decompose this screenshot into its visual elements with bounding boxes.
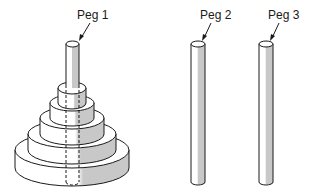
peg-3-label: Peg 3 [268, 8, 300, 22]
peg-2-label: Peg 2 [200, 8, 232, 22]
peg-1-label: Peg 1 [77, 8, 109, 22]
peg-1: Peg 1 [15, 8, 129, 186]
peg-2-arrow-icon [202, 23, 211, 41]
peg-3: Peg 3 [259, 8, 300, 185]
hanoi-diagram: Peg 1 Peg 2 Peg 3 [0, 0, 311, 196]
peg-1-shaft [66, 41, 79, 88]
peg-1-arrow-icon [79, 23, 90, 41]
peg-3-arrow-icon [270, 23, 279, 41]
peg-2: Peg 2 [191, 8, 232, 185]
